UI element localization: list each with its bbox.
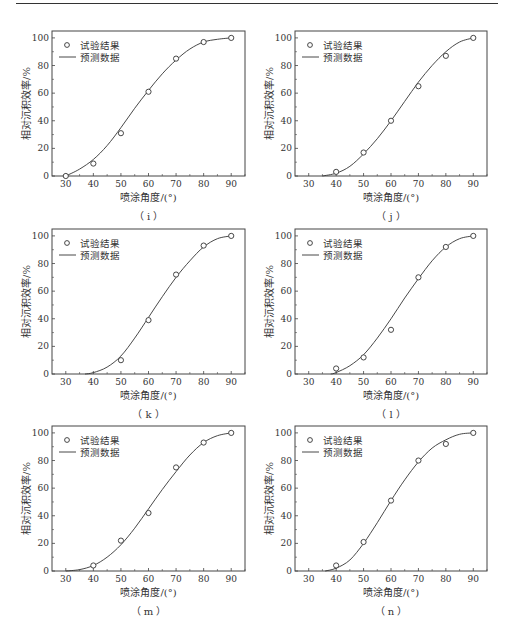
chart-l: 30405060708090020406080100喷涂角度/(°)相对沉积效率…	[263, 229, 487, 420]
chart-caption: （ j ）	[376, 211, 405, 222]
x-tick-label: 50	[358, 377, 370, 387]
experiment-point	[63, 173, 68, 178]
y-tick-label: 20	[281, 143, 293, 153]
x-tick-label: 80	[440, 377, 452, 387]
experiment-point	[416, 458, 421, 463]
experiment-point	[146, 318, 151, 323]
x-tick-label: 90	[468, 574, 480, 584]
experiment-point	[229, 430, 234, 435]
y-tick-label: 80	[38, 259, 50, 269]
y-tick-label: 60	[38, 88, 50, 98]
y-tick-label: 40	[38, 314, 50, 324]
experiment-point	[201, 39, 206, 44]
y-tick-label: 0	[43, 171, 49, 181]
x-tick-label: 40	[330, 574, 342, 584]
x-tick-label: 80	[198, 574, 210, 584]
y-tick-label: 100	[32, 231, 49, 241]
chart-i: 30405060708090020406080100喷涂角度/(°)相对沉积效率…	[20, 31, 245, 222]
y-tick-label: 0	[286, 171, 292, 181]
x-axis-label: 喷涂角度/(°)	[120, 586, 176, 598]
legend-points-label: 试验结果	[80, 435, 120, 446]
y-tick-label: 80	[38, 61, 50, 71]
y-axis-label: 相对沉积效率/%	[263, 265, 275, 338]
legend-line-label: 预测数据	[323, 447, 363, 458]
y-tick-label: 100	[275, 428, 292, 438]
legend-points-label: 试验结果	[323, 238, 363, 249]
chart-caption: （ k ）	[132, 409, 164, 420]
y-tick-label: 20	[281, 341, 293, 351]
x-tick-label: 60	[143, 377, 155, 387]
x-tick-label: 90	[468, 179, 480, 189]
experiment-point	[443, 53, 448, 58]
x-tick-label: 40	[330, 377, 342, 387]
experiment-point	[173, 465, 178, 470]
x-tick-label: 70	[170, 179, 182, 189]
legend-line-label: 预测数据	[323, 52, 363, 63]
chart-caption: （ m ）	[131, 606, 167, 617]
experiment-point	[334, 563, 339, 568]
experiment-point	[443, 244, 448, 249]
x-tick-label: 80	[198, 377, 210, 387]
legend-points-label: 试验结果	[323, 435, 363, 446]
experiment-point	[229, 233, 234, 238]
legend-line-label: 预测数据	[80, 52, 120, 63]
experiment-point	[118, 538, 123, 543]
y-axis-label: 相对沉积效率/%	[263, 67, 275, 140]
y-tick-label: 20	[281, 538, 293, 548]
x-tick-label: 50	[115, 574, 127, 584]
chart-caption: （ i ）	[134, 211, 164, 222]
experiment-point	[201, 440, 206, 445]
y-tick-label: 60	[281, 286, 293, 296]
y-tick-label: 20	[38, 538, 50, 548]
legend-line-label: 预测数据	[80, 447, 120, 458]
x-tick-label: 30	[60, 377, 72, 387]
x-tick-label: 70	[413, 179, 425, 189]
experiment-point	[388, 118, 393, 123]
y-tick-label: 40	[281, 116, 293, 126]
experiment-point	[201, 243, 206, 248]
x-axis-label: 喷涂角度/(°)	[120, 191, 176, 203]
x-axis-label: 喷涂角度/(°)	[363, 191, 419, 203]
y-tick-label: 0	[43, 369, 49, 379]
experiment-point	[118, 131, 123, 136]
x-tick-label: 70	[413, 574, 425, 584]
legend-points-label: 试验结果	[80, 238, 120, 249]
y-tick-label: 80	[281, 456, 293, 466]
x-tick-label: 30	[60, 179, 72, 189]
y-tick-label: 0	[43, 566, 49, 576]
legend-points-label: 试验结果	[80, 40, 120, 51]
experiment-point	[334, 169, 339, 174]
chart-n: 30405060708090020406080100喷涂角度/(°)相对沉积效率…	[263, 426, 487, 617]
experiment-point	[388, 327, 393, 332]
y-tick-label: 40	[281, 511, 293, 521]
y-tick-label: 60	[281, 483, 293, 493]
legend-marker-icon	[308, 241, 313, 246]
y-tick-label: 60	[38, 286, 50, 296]
legend-line-label: 预测数据	[323, 250, 363, 261]
x-tick-label: 60	[385, 377, 397, 387]
x-tick-label: 80	[440, 179, 452, 189]
x-axis-label: 喷涂角度/(°)	[363, 586, 419, 598]
experiment-point	[229, 35, 234, 40]
x-tick-label: 50	[115, 377, 127, 387]
y-tick-label: 100	[275, 33, 292, 43]
legend-marker-icon	[65, 438, 70, 443]
x-tick-label: 40	[330, 179, 342, 189]
experiment-point	[361, 539, 366, 544]
y-tick-label: 80	[38, 456, 50, 466]
y-tick-label: 100	[32, 428, 49, 438]
y-tick-label: 20	[38, 143, 50, 153]
experiment-point	[173, 272, 178, 277]
y-tick-label: 20	[38, 341, 50, 351]
experiment-point	[388, 498, 393, 503]
x-tick-label: 90	[225, 377, 237, 387]
legend-marker-icon	[308, 43, 313, 48]
chart-caption: （ l ）	[376, 409, 406, 420]
x-tick-label: 90	[225, 179, 237, 189]
x-tick-label: 40	[88, 377, 100, 387]
x-tick-label: 60	[385, 574, 397, 584]
experiment-point	[416, 275, 421, 280]
x-tick-label: 70	[413, 377, 425, 387]
legend-marker-icon	[65, 241, 70, 246]
x-tick-label: 50	[358, 179, 370, 189]
